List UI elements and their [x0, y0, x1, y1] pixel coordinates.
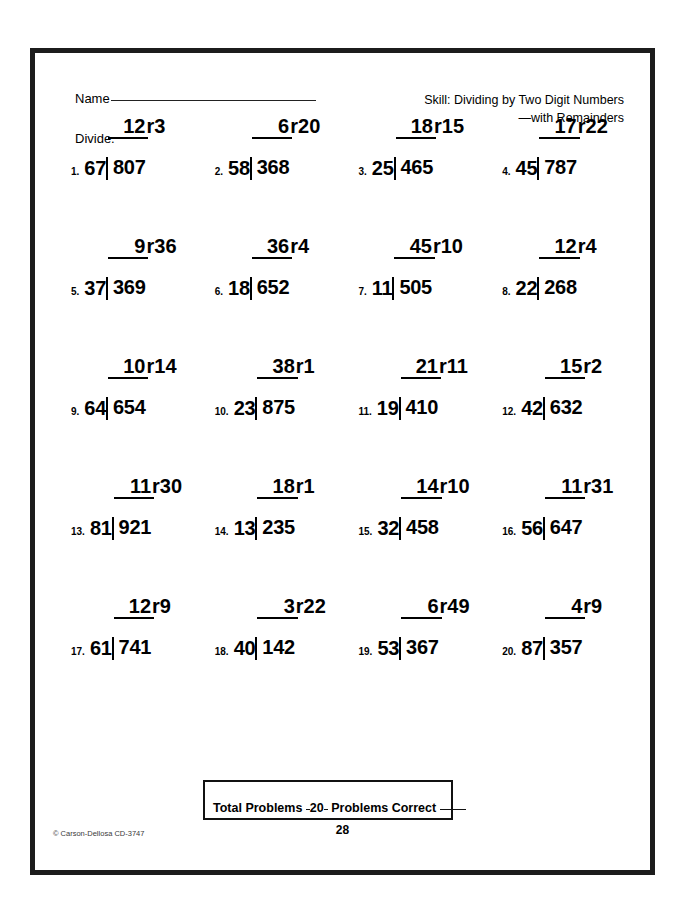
division-bracket: 12r3807 — [106, 157, 145, 180]
quotient: 12 — [123, 116, 145, 136]
score-box: Total Problems 20 Problems Correct — [203, 780, 453, 820]
vinculum-line — [401, 377, 441, 379]
dividend: 632 — [550, 396, 582, 418]
vinculum-line — [257, 497, 297, 499]
vinculum-line — [257, 617, 297, 619]
dividend: 741 — [119, 636, 151, 658]
problem-row: 1.6712r38072.586r203683.2518r154654.4517… — [59, 157, 634, 277]
remainder: r2 — [583, 356, 602, 376]
remainder: r49 — [440, 596, 470, 616]
quotient-area: 18r15 — [396, 116, 433, 136]
divisor: 64 — [84, 398, 106, 420]
divisor: 23 — [234, 398, 256, 420]
problem-number: 6. — [215, 287, 228, 300]
division-problem[interactable]: 14.1318r1235 — [203, 517, 347, 637]
problem-number: 15. — [359, 527, 378, 540]
problem-number: 10. — [215, 407, 234, 420]
problems-correct-label: Problems Correct — [331, 801, 436, 815]
dividend: 652 — [257, 276, 289, 298]
remainder: r9 — [152, 596, 171, 616]
dividend: 357 — [550, 636, 582, 658]
problem-number: 7. — [359, 287, 372, 300]
vinculum-line — [539, 137, 579, 139]
division-problem[interactable]: 10.2338r1875 — [203, 397, 347, 517]
score-text: Total Problems 20 Problems Correct — [213, 801, 466, 815]
division-bracket: 38r1875 — [255, 397, 294, 420]
name-field[interactable]: Name — [75, 91, 316, 106]
quotient: 10 — [123, 356, 145, 376]
division-problem[interactable]: 19.536r49367 — [347, 637, 491, 757]
divisor: 81 — [90, 518, 112, 540]
division-problem[interactable]: 6.1836r4652 — [203, 277, 347, 397]
remainder: r4 — [578, 236, 597, 256]
quotient: 11 — [561, 476, 582, 496]
quotient: 6 — [427, 596, 438, 616]
quotient-area: 21r11 — [401, 356, 438, 376]
quotient-area: 11r30 — [114, 476, 151, 496]
problem-row: 5.379r363696.1836r46527.1145r105058.2212… — [59, 277, 634, 397]
page-number: 28 — [35, 823, 650, 837]
division-problem[interactable]: 7.1145r10505 — [347, 277, 491, 397]
dividend: 458 — [406, 516, 438, 538]
division-bracket: 17r22787 — [537, 157, 576, 180]
problem-number: 1. — [71, 167, 84, 180]
quotient-area: 36r4 — [252, 236, 289, 256]
quotient-area: 12r3 — [108, 116, 145, 136]
problem-number: 20. — [502, 647, 521, 660]
dividend: 465 — [401, 156, 433, 178]
division-bracket: 11r30921 — [112, 517, 151, 540]
quotient-area: 4r9 — [545, 596, 582, 616]
vinculum-line — [108, 257, 148, 259]
division-problem[interactable]: 3.2518r15465 — [347, 157, 491, 277]
name-write-line[interactable] — [111, 100, 316, 101]
worksheet-page: Name Skill: Dividing by Two Digit Number… — [30, 48, 655, 875]
remainder: r10 — [433, 236, 463, 256]
quotient-area: 45r10 — [394, 236, 431, 256]
divisor: 53 — [377, 638, 399, 660]
division-problem[interactable]: 20.874r9357 — [490, 637, 634, 757]
dividend: 235 — [262, 516, 294, 538]
divisor: 13 — [234, 518, 256, 540]
quotient-area: 14r10 — [401, 476, 438, 496]
remainder: r30 — [152, 476, 182, 496]
division-bracket: 21r11410 — [399, 397, 438, 420]
division-bracket: 18r15465 — [394, 157, 433, 180]
division-problem[interactable]: 5.379r36369 — [59, 277, 203, 397]
problem-number: 3. — [359, 167, 372, 180]
division-problem[interactable]: 1.6712r3807 — [59, 157, 203, 277]
quotient-area: 6r20 — [252, 116, 289, 136]
division-problem[interactable]: 15.3214r10458 — [347, 517, 491, 637]
vinculum-line — [539, 257, 579, 259]
division-problem[interactable]: 17.6112r9741 — [59, 637, 203, 757]
vinculum-line — [108, 377, 148, 379]
quotient-area: 11r31 — [545, 476, 582, 496]
problem-number: 8. — [502, 287, 515, 300]
total-problems-rule-right — [324, 809, 328, 810]
dividend: 807 — [113, 156, 145, 178]
vinculum-line — [545, 497, 585, 499]
division-problem[interactable]: 13.8111r30921 — [59, 517, 203, 637]
vinculum-line — [252, 257, 292, 259]
division-problem[interactable]: 12.4215r2632 — [490, 397, 634, 517]
division-bracket: 15r2632 — [543, 397, 582, 420]
division-problem[interactable]: 16.5611r31647 — [490, 517, 634, 637]
division-problem[interactable]: 4.4517r22787 — [490, 157, 634, 277]
division-problem[interactable]: 8.2212r4268 — [490, 277, 634, 397]
quotient: 18 — [273, 476, 295, 496]
vinculum-line — [545, 617, 585, 619]
division-problem[interactable]: 11.1921r11410 — [347, 397, 491, 517]
problem-number: 12. — [502, 407, 521, 420]
division-bracket: 11r31647 — [543, 517, 582, 540]
division-problem[interactable]: 18.403r22142 — [203, 637, 347, 757]
divisor: 25 — [372, 158, 394, 180]
remainder: r31 — [583, 476, 613, 496]
problem-number: 18. — [215, 647, 234, 660]
dividend: 654 — [113, 396, 145, 418]
dividend: 142 — [262, 636, 294, 658]
division-problem[interactable]: 9.6410r14654 — [59, 397, 203, 517]
quotient: 11 — [130, 476, 151, 496]
division-problem[interactable]: 2.586r20368 — [203, 157, 347, 277]
remainder: r15 — [434, 116, 464, 136]
problems-correct-write-line[interactable] — [440, 809, 466, 810]
vinculum-line — [401, 617, 441, 619]
